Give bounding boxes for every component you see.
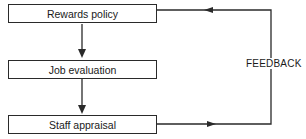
feedback-label: FEEDBACK — [245, 58, 303, 69]
job-evaluation-box: Job evaluation — [8, 60, 157, 79]
box-label: Rewards policy — [47, 8, 118, 20]
box-label: Staff appraisal — [49, 119, 116, 131]
rewards-policy-box: Rewards policy — [8, 4, 157, 23]
box-label: Job evaluation — [49, 64, 117, 76]
staff-appraisal-box: Staff appraisal — [8, 115, 157, 134]
arrow-left-feedback — [204, 7, 213, 13]
arrow-down-1 — [78, 49, 86, 58]
arrow-down-2 — [78, 105, 86, 114]
arrow-right-feedback — [207, 121, 216, 127]
